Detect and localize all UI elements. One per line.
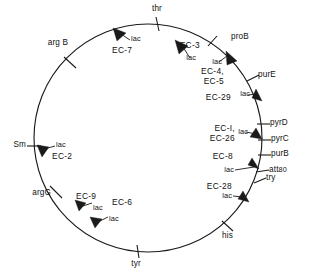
arrowhead-ec6 xyxy=(90,217,102,228)
gene-label-pyrd: pyrD xyxy=(270,118,288,127)
lac-label-ec29: lac xyxy=(240,89,250,98)
gene-label-pyrc: pyrC xyxy=(271,134,289,143)
gene-label-argg: argG xyxy=(32,188,51,197)
tick-argg xyxy=(50,186,62,198)
gene-label-tyr: tyr xyxy=(131,259,141,268)
ec-label-ec28: EC-28 xyxy=(207,182,232,191)
ec-label-ec5: EC-5 xyxy=(204,77,224,87)
ec-label-ec7: EC-7 xyxy=(112,46,132,55)
ec-label-ec29: EC-29 xyxy=(206,93,231,102)
gene-label-sm: Sm xyxy=(13,140,26,149)
lac-label-ec3: lac xyxy=(186,53,196,62)
ec-label-ec2: EC-2 xyxy=(52,152,72,161)
gene-label-argb: arg B xyxy=(48,38,68,47)
gene-label-thr: thr xyxy=(152,4,162,13)
lac-label-ec9: lac xyxy=(93,203,103,212)
att-subscript-text: 80 xyxy=(279,165,287,174)
arrowhead-ec28 xyxy=(238,191,249,202)
lac-label-ec28: lac xyxy=(222,191,232,200)
ec-label-ec26: EC-26 xyxy=(210,134,235,144)
gene-label-try: try xyxy=(266,173,276,182)
lac-label-ec8: lac xyxy=(224,165,234,174)
lac-label-ec2: lac xyxy=(56,140,66,149)
circular-genetic-map: thr arg B lac EC-7 EC-3 lac proB lac EC-… xyxy=(0,0,310,280)
gene-label-purb: purB xyxy=(271,149,289,158)
tick-argb xyxy=(64,57,76,68)
tick-att80 xyxy=(256,170,269,172)
lac-label-ec7: lac xyxy=(131,34,141,43)
ec-label-ec9: EC-9 xyxy=(76,192,96,201)
gene-label-prob: proB xyxy=(231,32,249,41)
arrowhead-ec4-5 xyxy=(226,51,237,65)
tick-his xyxy=(222,221,233,231)
gene-label-his: his xyxy=(222,231,233,240)
lac-label-ec1-26: lac xyxy=(238,127,248,136)
ec-label-ec6: EC-6 xyxy=(112,198,132,207)
lac-label-ec6: lac xyxy=(109,214,119,223)
arrowhead-ec7 xyxy=(113,28,126,41)
leader-ec8 xyxy=(235,167,254,170)
tick-try xyxy=(254,178,266,183)
lac-label-ec4-5: lac xyxy=(212,57,222,66)
gene-label-pure: purE xyxy=(258,70,276,79)
arrowhead-ec29 xyxy=(252,89,262,101)
ec-label-ec3: EC-3 xyxy=(180,41,200,50)
arrowhead-ec2 xyxy=(37,145,49,157)
map-canvas xyxy=(0,0,310,280)
ec-label-ec8: EC-8 xyxy=(213,152,233,161)
